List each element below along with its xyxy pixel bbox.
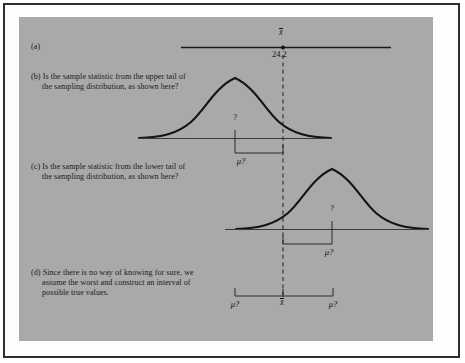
confidence-interval-bracket [235, 288, 333, 296]
bell-curve-upper-tail [139, 78, 331, 138]
figure-page: (a) (b) Is the sample statistic from the… [0, 0, 465, 363]
diagram-artwork: ? μ? ? μ? μ? μ? [19, 17, 433, 341]
sample-mean-value: 24.2 [272, 50, 287, 59]
mu-label-b: μ? [236, 156, 246, 166]
interval-bracket-b [235, 145, 283, 153]
bell-curve-lower-tail [236, 169, 428, 229]
question-mark-b: ? [233, 113, 237, 122]
figure-panel: (a) (b) Is the sample statistic from the… [19, 17, 433, 341]
xbar-label-a: x̄ [279, 28, 283, 37]
sample-mean-value-text: 24.2 [272, 50, 287, 59]
sample-mean-dot [281, 46, 285, 50]
mu-label-d-left: μ? [230, 299, 240, 309]
interval-bracket-c [283, 236, 332, 244]
mu-label-d-right: μ? [328, 299, 338, 309]
xbar-glyph-a: x̄ [279, 28, 283, 37]
xbar-glyph-d: x̄ [280, 298, 284, 307]
question-mark-c: ? [330, 204, 334, 213]
mu-label-c: μ? [324, 247, 334, 257]
xbar-label-d: x̄ [280, 298, 284, 307]
